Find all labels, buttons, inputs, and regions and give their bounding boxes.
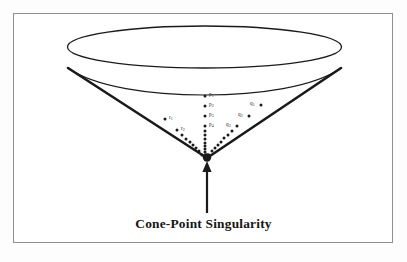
point-label-q1: q1 bbox=[250, 101, 255, 107]
point-label-p4: p4 bbox=[209, 122, 214, 128]
point-label-r2: r2 bbox=[181, 126, 185, 132]
cone-right-edge bbox=[207, 68, 341, 158]
figure-root: p1 p2 p3 p4 q1 q2 q3 r1 r2 Cone-Point Si… bbox=[0, 0, 407, 262]
point-label-q2: q2 bbox=[238, 112, 243, 118]
callout-arrow-head bbox=[202, 161, 211, 172]
point-label-q3: q3 bbox=[226, 122, 231, 128]
point-sequence-q bbox=[208, 104, 263, 157]
cone-left-edge bbox=[68, 68, 207, 158]
point-label-p2: p2 bbox=[209, 102, 214, 108]
point-label-r1: r1 bbox=[169, 115, 173, 121]
point-label-p3: p3 bbox=[209, 112, 214, 118]
point-sequence-p bbox=[204, 95, 207, 157]
cone-interior-arc bbox=[68, 68, 341, 95]
cone-rim-ellipse bbox=[68, 26, 342, 68]
figure-caption: Cone-Point Singularity bbox=[0, 216, 407, 232]
point-label-p1: p1 bbox=[209, 92, 214, 98]
